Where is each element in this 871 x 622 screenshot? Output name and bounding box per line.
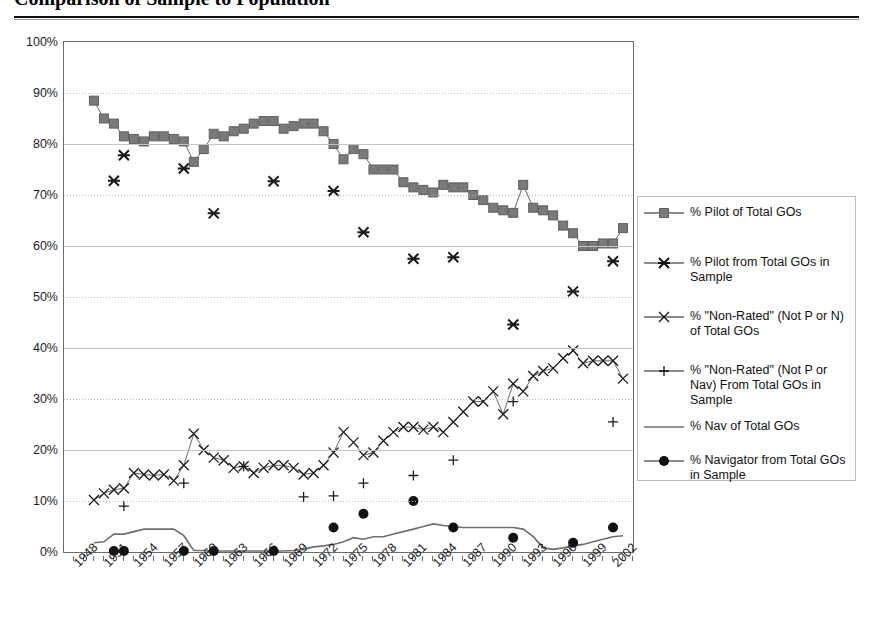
legend-label: % Pilot of Total GOs [690, 205, 806, 220]
gridline [64, 297, 633, 298]
legend-marker-none-icon [638, 420, 690, 434]
gridline [64, 144, 633, 145]
legend-marker-square-icon [638, 206, 690, 220]
y-axis-tick-label: 50% [0, 290, 58, 304]
legend-item[interactable]: % Nav of Total GOs [638, 419, 857, 434]
legend-item[interactable]: % Navigator from Total GOs in Sample [638, 453, 857, 483]
plot-area [63, 41, 634, 553]
title-divider [14, 16, 859, 18]
marker-asterisk [658, 258, 670, 268]
y-axis-tick-label: 90% [0, 86, 58, 100]
legend-marker-x-icon [638, 310, 690, 324]
legend-item[interactable]: % Pilot of Total GOs [638, 205, 857, 220]
gridline [64, 246, 633, 247]
legend-item[interactable]: % Pilot from Total GOs in Sample [638, 255, 857, 285]
y-axis-tick-label: 30% [0, 392, 58, 406]
legend-label: % "Non-Rated" (Not P or Nav) From Total … [690, 363, 857, 408]
y-axis-tick-label: 20% [0, 443, 58, 457]
gridline [64, 93, 633, 94]
legend-marker-dot-icon [638, 454, 690, 468]
page-title: Comparison of Sample to Population [14, 0, 330, 10]
gridline [64, 450, 633, 451]
page-title-clip: Comparison of Sample to Population [0, 0, 871, 14]
marker-plus [659, 366, 669, 376]
legend-item[interactable]: % "Non-Rated" (Not P or N) of Total GOs [638, 309, 857, 339]
gridlines [64, 42, 633, 552]
legend-marker-plus-icon [638, 364, 690, 378]
legend-marker-asterisk-icon [638, 256, 690, 270]
gridline [64, 399, 633, 400]
legend-item[interactable]: % "Non-Rated" (Not P or Nav) From Total … [638, 363, 857, 408]
legend-label: % Pilot from Total GOs in Sample [690, 255, 857, 285]
gridline [64, 195, 633, 196]
marker-square [660, 209, 669, 218]
legend-label: % Navigator from Total GOs in Sample [690, 453, 857, 483]
y-axis-tick-label: 10% [0, 494, 58, 508]
y-axis-tick-label: 80% [0, 137, 58, 151]
x-axis-labels: 1948195119541957196019631966196919721975… [63, 556, 634, 620]
y-axis-tick-label: 40% [0, 341, 58, 355]
legend-label: % Nav of Total GOs [690, 419, 804, 434]
gridline [64, 501, 633, 502]
marker-dot [659, 456, 669, 466]
y-axis-tick-label: 100% [0, 35, 58, 49]
chart-legend: % Pilot of Total GOs% Pilot from Total G… [637, 196, 856, 481]
y-axis-tick-label: 70% [0, 188, 58, 202]
legend-label: % "Non-Rated" (Not P or N) of Total GOs [690, 309, 857, 339]
y-axis-labels: 0%10%20%30%40%50%60%70%80%90%100% [0, 41, 58, 553]
gridline [64, 348, 633, 349]
y-axis-tick-label: 60% [0, 239, 58, 253]
chart-container: 0%10%20%30%40%50%60%70%80%90%100% 194819… [0, 26, 871, 622]
y-axis-tick-label: 0% [0, 545, 58, 559]
